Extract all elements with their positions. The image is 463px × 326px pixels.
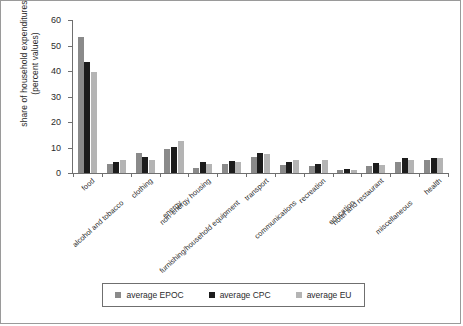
bar-1 bbox=[171, 147, 177, 173]
bar-2 bbox=[322, 160, 328, 174]
legend-item-1[interactable]: average CPC bbox=[209, 290, 271, 300]
bar-group bbox=[337, 20, 356, 173]
bar-2 bbox=[206, 164, 212, 173]
bar-0 bbox=[424, 160, 430, 174]
y-axis-line bbox=[72, 20, 73, 173]
bar-group bbox=[107, 20, 126, 173]
bar-1 bbox=[402, 158, 408, 173]
bar-0 bbox=[164, 149, 170, 173]
x-axis-label: food bbox=[81, 177, 97, 193]
bar-group bbox=[280, 20, 299, 173]
legend-item-0[interactable]: average EPOC bbox=[115, 290, 183, 300]
plot-area: 0102030405060 bbox=[73, 20, 448, 173]
y-tick-label: 20 bbox=[51, 118, 61, 127]
x-axis-label: transport bbox=[243, 177, 270, 202]
y-tick: 60 bbox=[68, 20, 72, 21]
y-tick-label: 30 bbox=[51, 92, 61, 101]
legend-swatch-icon bbox=[115, 292, 121, 298]
y-tick: 40 bbox=[68, 71, 72, 72]
legend-item-2[interactable]: average EU bbox=[296, 290, 352, 300]
bar-1 bbox=[142, 157, 148, 173]
bar-2 bbox=[120, 160, 126, 173]
x-axis-labels: foodalcohol and tobaccoclothingenergynon… bbox=[73, 177, 453, 257]
bar-0 bbox=[193, 168, 199, 173]
bar-0 bbox=[366, 166, 372, 173]
chart-frame: share of household expenditures (percent… bbox=[0, 0, 461, 324]
x-axis-label: recreation bbox=[298, 177, 328, 205]
bar-2 bbox=[379, 165, 385, 173]
x-axis-label: alcohol and tobacco bbox=[71, 199, 125, 249]
bar-0 bbox=[78, 37, 84, 173]
x-axis-label: health bbox=[423, 177, 443, 196]
bar-1 bbox=[431, 158, 437, 173]
bar-group bbox=[193, 20, 212, 173]
y-axis-title: share of household expenditures (percent… bbox=[19, 0, 40, 144]
y-tick: 20 bbox=[68, 122, 72, 123]
bar-2 bbox=[293, 160, 299, 174]
bar-0 bbox=[337, 170, 343, 173]
bar-1 bbox=[315, 164, 321, 173]
x-axis-line bbox=[72, 173, 448, 174]
bar-group bbox=[366, 20, 385, 173]
bar-group bbox=[395, 20, 414, 173]
bar-2 bbox=[437, 158, 443, 173]
bar-group bbox=[136, 20, 155, 173]
y-tick-label: 10 bbox=[51, 143, 61, 152]
bar-0 bbox=[309, 166, 315, 173]
y-tick-label: 0 bbox=[56, 169, 61, 178]
bar-1 bbox=[200, 162, 206, 173]
y-tick: 50 bbox=[68, 46, 72, 47]
bar-0 bbox=[107, 164, 113, 173]
bar-1 bbox=[286, 162, 292, 173]
x-axis-label: clothing bbox=[130, 177, 154, 200]
bar-0 bbox=[251, 157, 257, 173]
bar-0 bbox=[280, 165, 286, 173]
x-axis-label: miscellaneous bbox=[374, 199, 414, 236]
bar-2 bbox=[149, 160, 155, 174]
y-tick-label: 50 bbox=[51, 41, 61, 50]
bar-2 bbox=[408, 160, 414, 174]
bar-1 bbox=[229, 161, 235, 173]
bar-1 bbox=[113, 162, 119, 173]
bar-1 bbox=[84, 62, 90, 173]
legend-label: average EPOC bbox=[126, 290, 183, 300]
bar-1 bbox=[257, 153, 263, 173]
bar-group bbox=[424, 20, 443, 173]
bar-2 bbox=[235, 162, 241, 173]
legend-swatch-icon bbox=[209, 292, 215, 298]
legend-label: average EU bbox=[307, 290, 352, 300]
bar-group bbox=[78, 20, 97, 173]
y-tick: 0 bbox=[68, 173, 72, 174]
bar-group bbox=[251, 20, 270, 173]
bar-0 bbox=[222, 164, 228, 173]
legend-label: average CPC bbox=[220, 290, 271, 300]
x-axis-label: hotel and restaurant bbox=[331, 177, 385, 227]
bar-2 bbox=[264, 154, 270, 173]
x-axis-label: communications bbox=[254, 199, 299, 241]
bar-2 bbox=[351, 170, 357, 173]
x-axis-label: non-energy housing bbox=[158, 177, 212, 227]
bar-0 bbox=[136, 153, 142, 173]
y-tick: 10 bbox=[68, 148, 72, 149]
bar-group bbox=[222, 20, 241, 173]
bar-group bbox=[164, 20, 183, 173]
y-tick-label: 60 bbox=[51, 16, 61, 25]
bar-2 bbox=[178, 141, 184, 173]
y-tick: 30 bbox=[68, 97, 72, 98]
bar-1 bbox=[344, 169, 350, 173]
bar-1 bbox=[373, 163, 379, 173]
legend-swatch-icon bbox=[296, 292, 302, 298]
bar-group bbox=[309, 20, 328, 173]
chart-legend: average EPOCaverage CPCaverage EU bbox=[102, 283, 365, 307]
bar-0 bbox=[395, 162, 401, 173]
bar-2 bbox=[91, 72, 97, 173]
y-tick-label: 40 bbox=[51, 67, 61, 76]
